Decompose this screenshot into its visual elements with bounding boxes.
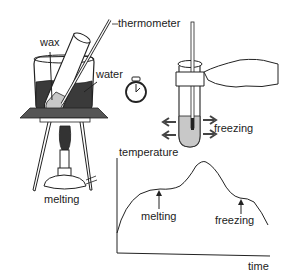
graph-freezing-label: freezing [215, 214, 254, 226]
temperature-time-graph: temperature time melting freezing [117, 146, 270, 272]
freezing-arrow [238, 199, 244, 214]
heating-apparatus [20, 20, 146, 191]
x-axis-label: time [248, 260, 269, 272]
melting-freezing-diagram: thermometer wax water freezing melting t… [0, 0, 287, 276]
y-axis-label: temperature [119, 146, 178, 158]
freezing-tube-label: freezing [214, 122, 253, 134]
hand-icon [204, 59, 278, 87]
stopwatch-icon [126, 77, 146, 102]
melting-arrow [156, 190, 162, 209]
thermometer-label: thermometer [118, 17, 181, 29]
x-axis [117, 253, 270, 256]
wax-label: wax [39, 36, 60, 48]
graph-melting-label: melting [141, 210, 176, 222]
gauze [20, 108, 108, 118]
tripod-top [40, 118, 90, 122]
water-label: water [95, 68, 123, 80]
bunsen-burner-icon [44, 126, 97, 189]
tube-holder [176, 72, 204, 86]
melting-burner-label: melting [44, 193, 79, 205]
